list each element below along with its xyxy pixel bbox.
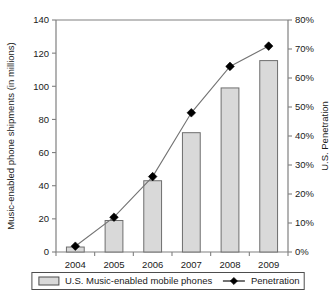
left-axis-tick-label: 140 [33,14,49,25]
right-axis-tick-label: 50% [295,101,315,112]
x-axis-tick-label-2005: 2005 [103,259,124,270]
right-axis-tick-label: 40% [295,130,315,141]
right-axis-tick-label: 70% [295,43,315,54]
left-axis-tick-label: 0 [44,246,49,257]
x-axis-tick-label-2006: 2006 [142,259,163,270]
x-axis-tick-label-2008: 2008 [219,259,240,270]
left-axis-tick-label: 120 [33,48,49,59]
bar-2005 [105,221,123,252]
chart-svg: 0204060801001201400%10%20%30%40%50%60%70… [0,0,336,304]
x-axis-tick-label-2009: 2009 [258,259,279,270]
left-axis-title-text: Music-enabled phone shipments (in millio… [5,42,16,229]
right-axis-tick-label: 30% [295,159,315,170]
right-axis-tick-label: 0% [295,246,309,257]
right-axis-title-text: U.S. Penetration [319,101,330,171]
x-axis-tick-label-2007: 2007 [181,259,202,270]
chart-figure: 0204060801001201400%10%20%30%40%50%60%70… [0,0,336,304]
left-axis-tick-label: 20 [38,213,49,224]
left-axis-tick-label: 100 [33,81,49,92]
legend-penetration-label-text: Penetration [251,275,300,286]
left-axis-tick-label: 40 [38,180,49,191]
legend-bar-swatch [39,277,59,285]
left-axis-tick-label: 80 [38,114,49,125]
right-axis-tick-label: 60% [295,72,315,83]
left-axis-tick-label: 60 [38,147,49,158]
right-axis-tick-label: 80% [295,14,315,25]
bar-2008 [221,88,239,252]
x-axis-tick-label-2004: 2004 [65,259,86,270]
bar-2006 [144,181,162,252]
right-axis-tick-label: 20% [295,188,315,199]
bar-2007 [182,133,200,252]
bar-2009 [260,61,278,252]
right-axis-tick-label: 10% [295,217,315,228]
legend-bar-label-text: U.S. Music-enabled mobile phones [65,275,213,286]
